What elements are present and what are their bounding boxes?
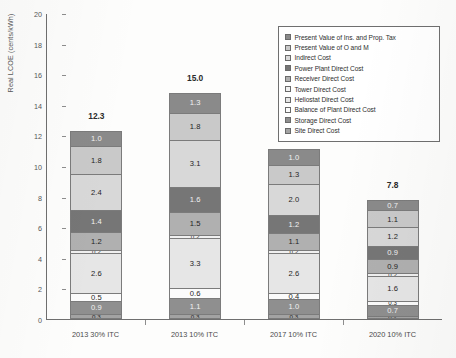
bar-segment-value-label: 2.6 — [289, 270, 300, 278]
y-axis-tick-label: 20 — [34, 10, 42, 19]
bar-segment[interactable]: 2.6 — [268, 253, 320, 293]
y-axis-tick-label: 12 — [34, 132, 42, 141]
bar-segment-value-label: 1.0 — [289, 303, 300, 311]
legend-label: Receiver Direct Cost — [295, 75, 354, 82]
bar-segment-value-label: 1.6 — [387, 285, 398, 293]
legend-swatch-icon — [285, 97, 291, 103]
bar-segment-value-label: 0.9 — [387, 263, 398, 271]
bar-segment[interactable]: 0.4 — [268, 293, 320, 299]
bar-segment[interactable]: 2.0 — [268, 184, 320, 215]
bar-segment[interactable]: 0.3 — [169, 314, 221, 319]
legend-label: Present Value of O and M — [295, 44, 369, 51]
legend-item[interactable]: Receiver Direct Cost — [285, 74, 435, 84]
legend-label: Tower Direct Cost — [295, 86, 346, 93]
bar-segment[interactable]: 0.2 — [268, 250, 320, 253]
legend-swatch-icon — [285, 128, 291, 134]
bar-segment[interactable]: 1.6 — [367, 276, 419, 300]
bar-segment[interactable]: 0.9 — [367, 246, 419, 260]
legend-item[interactable]: Storage Direct Cost — [285, 115, 435, 125]
y-axis-tick-label: 0 — [38, 316, 42, 325]
bar-segment-value-label: 1.8 — [190, 123, 201, 131]
bar-segment-value-label: 1.3 — [289, 171, 300, 179]
bar-segment-value-label: 0.2 — [191, 235, 200, 238]
bar-segment[interactable]: 1.6 — [169, 187, 221, 211]
bar-segment[interactable]: 1.0 — [268, 299, 320, 314]
y-axis-tick-label: 6 — [38, 224, 42, 233]
bar-group[interactable]: 0.31.10.63.30.21.51.63.11.81.315.0 — [169, 93, 221, 319]
bar-segment[interactable]: 0.2 — [367, 273, 419, 276]
bar-group[interactable]: 0.20.70.31.60.20.90.91.21.10.77.8 — [367, 200, 419, 319]
bar-segment[interactable]: 1.2 — [70, 232, 122, 250]
bar-segment[interactable]: 0.5 — [70, 293, 122, 301]
x-axis-category-label: 2020 10% ITC — [353, 330, 433, 339]
legend-item[interactable]: Heliostat Direct Cost — [285, 94, 435, 104]
bar-segment-value-label: 3.3 — [190, 260, 201, 268]
bar-segment-value-label: 0.6 — [190, 290, 201, 298]
y-axis-tick-label: 10 — [34, 163, 42, 172]
bar-segment[interactable]: 0.7 — [367, 200, 419, 211]
bar-segment[interactable]: 1.5 — [169, 212, 221, 235]
bar-segment[interactable]: 1.1 — [169, 298, 221, 315]
bar-segment-value-label: 0.4 — [289, 293, 300, 299]
bar-segment-value-label: 1.0 — [91, 135, 102, 143]
bar-group[interactable]: 0.31.00.42.60.21.11.22.01.31.011.1 — [268, 149, 320, 319]
bar-segment[interactable]: 1.1 — [268, 233, 320, 250]
legend-swatch-icon — [285, 117, 291, 123]
bar-segment[interactable]: 0.2 — [70, 250, 122, 253]
bar-segment-value-label: 1.2 — [91, 238, 102, 246]
bar-segment[interactable]: 1.2 — [367, 227, 419, 245]
y-axis-tick-label: 2 — [38, 285, 42, 294]
bar-segment[interactable]: 0.3 — [70, 314, 122, 319]
bar-segment[interactable]: 2.4 — [70, 174, 122, 211]
bar-segment-value-label: 1.5 — [190, 220, 201, 228]
bar-segment-value-label: 0.3 — [92, 314, 101, 319]
bar-segment[interactable]: 1.0 — [70, 131, 122, 146]
bar-segment[interactable]: 1.8 — [70, 146, 122, 174]
bar-segment[interactable]: 2.6 — [70, 253, 122, 293]
bar-segment-value-label: 1.0 — [289, 154, 300, 162]
x-axis-tick-mark — [145, 320, 146, 325]
legend-item[interactable]: Balance of Plant Direct Cost — [285, 105, 435, 115]
bar-segment-value-label: 0.3 — [191, 314, 200, 319]
bar-segment[interactable]: 0.9 — [367, 259, 419, 273]
bar-segment[interactable]: 0.6 — [169, 288, 221, 297]
bar-segment[interactable]: 0.2 — [367, 316, 419, 319]
bar-segment[interactable]: 1.1 — [367, 210, 419, 227]
legend-item[interactable]: Present Value of O and M — [285, 42, 435, 52]
legend-label: Site Direct Cost — [295, 127, 340, 134]
bar-segment-value-label: 0.7 — [387, 307, 398, 315]
legend-item[interactable]: Power Plant Direct Cost — [285, 63, 435, 73]
bar-segment[interactable]: 0.2 — [169, 235, 221, 238]
bar-segment-value-label: 1.4 — [91, 218, 102, 226]
legend-item[interactable]: Tower Direct Cost — [285, 84, 435, 94]
legend-label: Heliostat Direct Cost — [295, 96, 354, 103]
y-axis-tick-label: 18 — [34, 40, 42, 49]
bar-segment[interactable]: 3.3 — [169, 238, 221, 288]
legend-swatch-icon — [285, 34, 291, 40]
bar-segment[interactable]: 0.9 — [70, 301, 122, 315]
bar-segment[interactable]: 1.2 — [268, 215, 320, 233]
bar-segment[interactable]: 0.3 — [268, 314, 320, 319]
bar-segment[interactable]: 0.3 — [367, 301, 419, 306]
bar-segment[interactable]: 3.1 — [169, 140, 221, 187]
legend-swatch-icon — [285, 86, 291, 92]
bar-segment[interactable]: 1.3 — [268, 165, 320, 185]
legend-item[interactable]: Site Direct Cost — [285, 126, 435, 136]
legend-item[interactable]: Present Value of Ins. and Prop. Tax — [285, 32, 435, 42]
bar-segment-value-label: 0.9 — [387, 249, 398, 257]
bar-segment-value-label: 2.0 — [289, 196, 300, 204]
y-axis-tick-label: 8 — [38, 193, 42, 202]
bar-segment-value-label: 2.4 — [91, 189, 102, 197]
bar-segment[interactable]: 1.3 — [169, 93, 221, 113]
bar-segment[interactable]: 1.8 — [169, 113, 221, 141]
bar-group[interactable]: 0.30.90.52.60.21.21.42.41.81.012.3 — [70, 131, 122, 319]
bar-segment-value-label: 0.2 — [388, 316, 397, 319]
bar-segment[interactable]: 1.4 — [70, 210, 122, 231]
bar-segment[interactable]: 1.0 — [268, 149, 320, 164]
legend-item[interactable]: Indirect Cost — [285, 53, 435, 63]
bar-segment[interactable]: 0.7 — [367, 305, 419, 316]
legend-label: Power Plant Direct Cost — [295, 65, 364, 72]
bar-total-label: 7.8 — [387, 180, 399, 190]
bar-segment-value-label: 1.1 — [190, 303, 201, 311]
y-axis-tick-label: 4 — [38, 254, 42, 263]
